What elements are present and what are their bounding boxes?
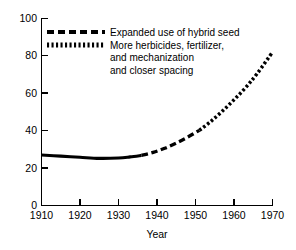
x-axis-title: Year <box>146 228 168 240</box>
legend-entry-2-label-line-2: and mechanization <box>110 52 194 63</box>
x-tick-label-1940: 1940 <box>145 209 169 221</box>
line-chart: 0 20 40 60 80 100 1910 1920 1930 1940 19… <box>0 0 296 250</box>
x-tick-label-1960: 1960 <box>222 209 246 221</box>
legend-entry-2-label-line-3: and closer spacing <box>110 65 193 76</box>
y-tick-label-60: 60 <box>25 87 37 99</box>
y-tick-label-100: 100 <box>19 12 37 24</box>
y-tick-label-80: 80 <box>25 49 37 61</box>
x-tick-label-1930: 1930 <box>107 209 131 221</box>
x-tick-label-1910: 1910 <box>30 209 54 221</box>
y-tick-label-20: 20 <box>25 162 37 174</box>
legend-entry-1-label: Expanded use of hybrid seed <box>110 27 240 38</box>
x-tick-label-1950: 1950 <box>184 209 208 221</box>
x-tick-label-1920: 1920 <box>68 209 92 221</box>
y-tick-label-40: 40 <box>25 124 37 136</box>
legend-entry-2-label-line-1: More herbicides, fertilizer, <box>110 40 224 51</box>
x-tick-label-1970: 1970 <box>261 209 285 221</box>
chart-container: 0 20 40 60 80 100 1910 1920 1930 1940 19… <box>0 0 296 250</box>
